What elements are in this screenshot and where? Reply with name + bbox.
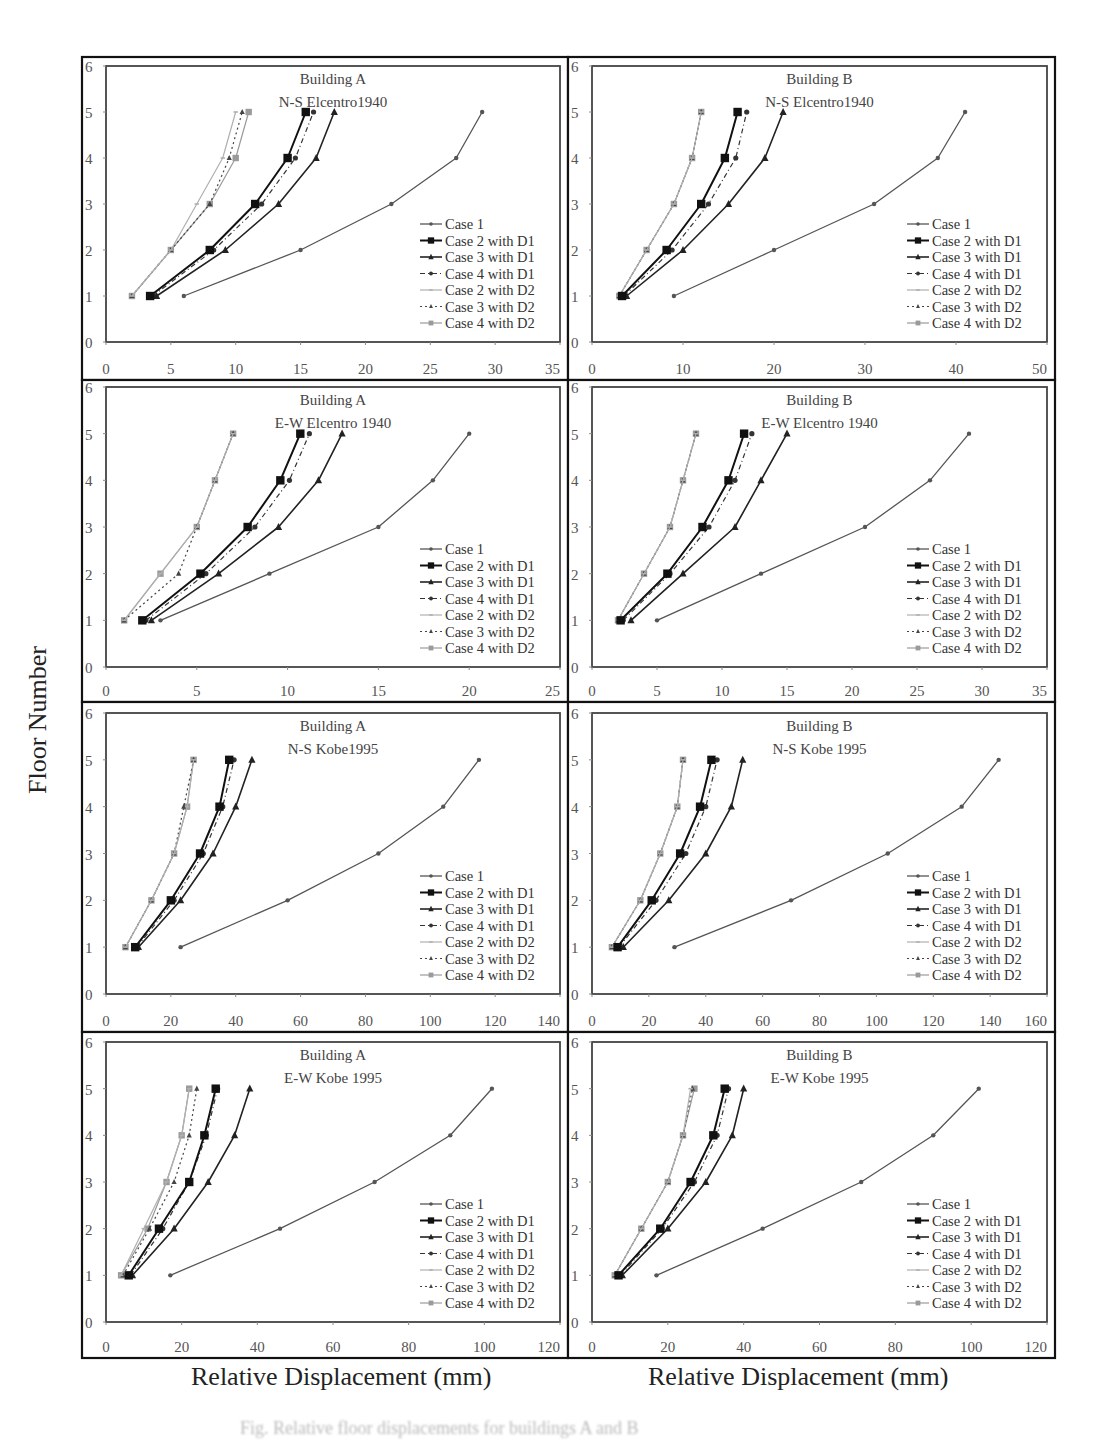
- marker-dot-icon: [749, 431, 754, 436]
- marker-square-icon: [915, 1217, 921, 1223]
- legend-entry: Case 3 with D1: [445, 1229, 535, 1245]
- marker-dot-icon: [285, 898, 289, 902]
- legend-entry: Case 1: [932, 216, 971, 232]
- marker-dot-icon: [916, 1252, 920, 1256]
- legend-entry: Case 3 with D2: [445, 951, 535, 967]
- x-tick-label: 10: [228, 361, 243, 377]
- legend-entry: Case 3 with D1: [932, 1229, 1022, 1245]
- chart-subtitle: E-W Kobe 1995: [284, 1070, 382, 1086]
- x-tick-label: 100: [473, 1339, 496, 1355]
- legend-entry: Case 1: [445, 1196, 484, 1212]
- x-tick-label: 20: [163, 1013, 178, 1029]
- marker-square-icon: [200, 1131, 208, 1139]
- y-tick-label: 5: [571, 1082, 579, 1098]
- legend-entry: Case 3 with D1: [445, 574, 535, 590]
- legend-entry: Case 4 with D1: [932, 266, 1022, 282]
- marker-dot-icon: [454, 156, 458, 160]
- marker-dot-icon: [429, 272, 433, 276]
- marker-square-icon: [206, 246, 214, 254]
- marker-dot-icon: [916, 272, 920, 276]
- marker-dot-icon: [429, 1202, 433, 1206]
- marker-dot-icon: [429, 597, 433, 601]
- legend-entry: Case 4 with D2: [445, 967, 535, 983]
- chart-panel-6: 0123456020406080100120140160Building BN-…: [568, 702, 1055, 1032]
- legend-entry: Case 3 with D2: [445, 624, 535, 640]
- marker-square-icon: [196, 569, 204, 577]
- chart-title: Building B: [786, 71, 852, 87]
- marker-dot-icon: [772, 248, 776, 252]
- legend-entry: Case 2 with D1: [932, 233, 1022, 249]
- x-tick-label: 40: [250, 1339, 265, 1355]
- y-tick-label: 0: [571, 1315, 579, 1331]
- legend-entry: Case 2 with D2: [932, 1262, 1022, 1278]
- y-tick-label: 3: [571, 847, 579, 863]
- y-tick-label: 0: [571, 660, 579, 676]
- marker-square-icon: [251, 200, 259, 208]
- legend-entry: Case 2 with D1: [445, 558, 535, 574]
- x-tick-label: 60: [326, 1339, 341, 1355]
- legend-entry: Case 2 with D1: [445, 233, 535, 249]
- chart-panel-5: 0123456020406080100120140Building AN-S K…: [82, 702, 568, 1032]
- chart-title: Building B: [786, 1047, 852, 1063]
- x-tick-label: 60: [812, 1339, 827, 1355]
- y-tick-label: 1: [571, 289, 579, 305]
- marker-square-icon: [167, 896, 175, 904]
- x-tick-label: 100: [865, 1013, 888, 1029]
- marker-square-icon: [915, 237, 921, 243]
- x-tick-label: 20: [845, 683, 860, 699]
- legend-entry: Case 4 with D1: [932, 1246, 1022, 1262]
- marker-square-icon: [916, 646, 921, 651]
- marker-square-icon: [155, 1224, 163, 1232]
- marker-dot-icon: [872, 202, 876, 206]
- marker-dot-icon: [789, 898, 793, 902]
- marker-square-icon: [916, 321, 921, 326]
- legend-entry: Case 2 with D2: [445, 1262, 535, 1278]
- x-tick-label: 10: [676, 361, 691, 377]
- marker-dot-icon: [182, 294, 186, 298]
- y-axis-label: Floor Number: [8, 600, 68, 840]
- chart-panel-4: 012345605101520253035Building BE-W Elcen…: [568, 380, 1055, 702]
- x-axis-label-left: Relative Displacement (mm): [191, 1362, 491, 1392]
- x-tick-label: 80: [358, 1013, 373, 1029]
- y-tick-label: 6: [571, 380, 579, 396]
- x-tick-label: 30: [488, 361, 503, 377]
- legend-entry: Case 1: [932, 1196, 971, 1212]
- x-tick-label: 15: [780, 683, 795, 699]
- legend-entry: Case 2 with D2: [932, 934, 1022, 950]
- y-tick-label: 4: [571, 1128, 579, 1144]
- y-tick-label: 4: [571, 473, 579, 489]
- x-tick-label: 100: [419, 1013, 442, 1029]
- marker-dot-icon: [307, 431, 312, 436]
- marker-dot-icon: [928, 478, 932, 482]
- y-tick-label: 5: [85, 427, 93, 443]
- legend-entry: Case 2 with D2: [932, 607, 1022, 623]
- marker-dot-icon: [654, 1273, 658, 1277]
- marker-dot-icon: [959, 804, 963, 808]
- marker-dot-icon: [480, 110, 484, 114]
- legend-entry: Case 4 with D1: [445, 591, 535, 607]
- y-tick-label: 2: [85, 1222, 93, 1238]
- marker-dot-icon: [733, 155, 738, 160]
- marker-dot-icon: [429, 874, 433, 878]
- x-tick-label: 160: [1025, 1013, 1048, 1029]
- legend-entry: Case 4 with D2: [445, 640, 535, 656]
- marker-dot-icon: [252, 524, 257, 529]
- legend-entry: Case 4 with D2: [932, 640, 1022, 656]
- marker-dot-icon: [429, 924, 433, 928]
- legend-entry: Case 4 with D2: [932, 1295, 1022, 1311]
- marker-dot-icon: [859, 1180, 863, 1184]
- marker-dot-icon: [293, 155, 298, 160]
- x-tick-label: 25: [545, 683, 560, 699]
- x-tick-label: 0: [588, 683, 596, 699]
- marker-square-icon: [296, 429, 304, 437]
- y-tick-label: 1: [571, 940, 579, 956]
- marker-dot-icon: [916, 874, 920, 878]
- y-axis-label-text: Floor Number: [23, 646, 53, 794]
- x-tick-label: 5: [193, 683, 201, 699]
- marker-dot-icon: [996, 758, 1000, 762]
- x-tick-label: 25: [423, 361, 438, 377]
- x-tick-label: 20: [641, 1013, 656, 1029]
- marker-square-icon: [276, 476, 284, 484]
- chart-subtitle: N-S Elcentro1940: [765, 94, 874, 110]
